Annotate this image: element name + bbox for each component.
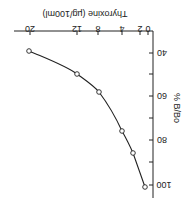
data-points xyxy=(27,49,148,190)
x-tick-label: 4 xyxy=(119,24,124,34)
x-axis-title: Thyroxine (µg/100ml) xyxy=(42,9,127,19)
y-axis-title: % B/Bo xyxy=(172,93,182,123)
data-point xyxy=(27,49,32,54)
chart-svg: 0 2 4 8 12 20 Thyroxine (µg/100ml) 40 60… xyxy=(0,0,188,212)
x-tick-label: 8 xyxy=(95,24,100,34)
y-tick-label: 40 xyxy=(157,48,167,58)
x-ticks xyxy=(30,31,148,35)
y-ticks xyxy=(149,53,153,185)
data-point xyxy=(97,90,102,95)
y-tick-label: 60 xyxy=(157,91,167,101)
x-tick-label: 0 xyxy=(145,24,150,34)
y-tick-label: 80 xyxy=(157,135,167,145)
y-tick-labels: 40 60 80 100 xyxy=(156,48,171,190)
x-tick-label: 2 xyxy=(137,24,142,34)
x-tick-label: 20 xyxy=(25,24,35,34)
data-point xyxy=(75,72,80,77)
x-tick-label: 12 xyxy=(72,24,82,34)
chart: 0 2 4 8 12 20 Thyroxine (µg/100ml) 40 60… xyxy=(0,0,188,212)
data-point xyxy=(120,129,125,134)
data-point xyxy=(143,185,148,190)
data-curve xyxy=(29,51,145,187)
x-tick-labels: 0 2 4 8 12 20 xyxy=(25,24,151,34)
data-point xyxy=(131,151,136,156)
y-tick-label: 100 xyxy=(156,180,171,190)
